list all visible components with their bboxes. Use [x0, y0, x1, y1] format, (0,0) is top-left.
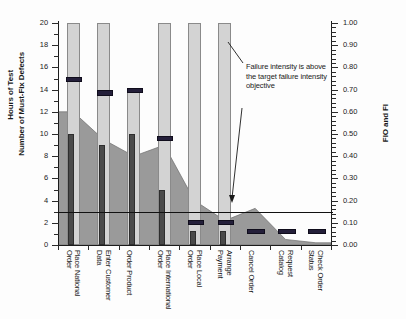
left-axis-title-defects: Number of Must-Fix Defects — [17, 52, 26, 156]
x-axis-category-label: Cancel Order — [246, 250, 255, 293]
left-axis-tick-label: 0 — [26, 241, 48, 249]
right-axis-tick — [331, 156, 338, 157]
left-axis-tick — [52, 156, 59, 157]
x-axis-tick — [88, 245, 89, 250]
marker-failure-intensity — [97, 90, 113, 95]
left-axis-minor-tick — [54, 123, 59, 124]
x-axis-tick — [331, 245, 332, 250]
right-axis-minor-tick — [331, 27, 336, 28]
marker-failure-intensity — [218, 220, 234, 225]
right-axis-tick — [331, 112, 338, 113]
right-axis-minor-tick — [331, 214, 336, 215]
x-axis-tick — [149, 245, 150, 250]
left-axis-tick-label: 8 — [26, 152, 48, 160]
right-axis-minor-tick — [331, 54, 336, 55]
right-axis-minor-tick — [331, 147, 336, 148]
left-axis-title-hours: Hours of Test — [6, 70, 15, 120]
right-axis-minor-tick — [331, 98, 336, 99]
right-axis-minor-tick — [331, 227, 336, 228]
bar-must-fix-defects — [129, 134, 135, 245]
right-axis-tick-label: 0.60 — [343, 108, 373, 116]
left-axis-tick-label: 10 — [26, 130, 48, 138]
left-axis-tick — [52, 201, 59, 202]
x-axis-category-label: Place Local Order — [186, 250, 203, 287]
right-axis-tick — [331, 67, 338, 68]
right-axis-minor-tick — [331, 107, 336, 108]
right-axis-minor-tick — [331, 41, 336, 42]
right-axis-minor-tick — [331, 192, 336, 193]
right-axis-minor-tick — [331, 116, 336, 117]
marker-failure-intensity — [247, 229, 265, 234]
right-axis-tick-label: 0.40 — [343, 152, 373, 160]
left-axis-minor-tick — [54, 101, 59, 102]
right-axis-tick-label: 1.00 — [343, 19, 373, 27]
right-axis-minor-tick — [331, 152, 336, 153]
x-axis-tick — [179, 245, 180, 250]
marker-failure-intensity — [278, 229, 296, 234]
left-axis-minor-tick — [54, 56, 59, 57]
right-axis-minor-tick — [331, 130, 336, 131]
right-axis-minor-tick — [331, 161, 336, 162]
right-axis-minor-tick — [331, 187, 336, 188]
x-axis-category-label: Place International Order — [155, 250, 172, 309]
right-axis-minor-tick — [331, 170, 336, 171]
left-axis-tick — [52, 90, 59, 91]
right-axis-minor-tick — [331, 143, 336, 144]
right-axis-tick-label: 0.80 — [343, 63, 373, 71]
left-axis-minor-tick — [54, 79, 59, 80]
right-axis-minor-tick — [331, 125, 336, 126]
x-axis-tick — [210, 245, 211, 250]
left-axis-minor-tick — [54, 145, 59, 146]
x-axis-category-label: Check Order Status — [307, 250, 324, 291]
x-axis-category-label: Arrange Payment — [216, 250, 233, 279]
bar-must-fix-defects — [68, 134, 74, 245]
x-axis-category-label: Request Catalog — [277, 250, 294, 277]
marker-failure-intensity — [127, 88, 143, 93]
x-axis-tick — [58, 245, 59, 250]
right-axis-tick — [331, 45, 338, 46]
marker-failure-intensity — [308, 229, 326, 234]
left-axis-tick — [52, 67, 59, 68]
right-axis-minor-tick — [331, 32, 336, 33]
marker-failure-intensity — [157, 136, 173, 141]
right-axis-minor-tick — [331, 103, 336, 104]
right-axis-minor-tick — [331, 209, 336, 210]
left-axis-tick-label: 6 — [26, 174, 48, 182]
left-axis-tick-label: 14 — [26, 86, 48, 94]
right-axis-tick-label: 0.50 — [343, 130, 373, 138]
x-axis-category-label: Enter Customer Data — [95, 250, 112, 300]
right-axis-minor-tick — [331, 121, 336, 122]
left-axis-minor-tick — [54, 234, 59, 235]
left-axis-tick — [52, 112, 59, 113]
right-axis-minor-tick — [331, 50, 336, 51]
right-axis-tick-label: 0.90 — [343, 41, 373, 49]
right-axis-minor-tick — [331, 59, 336, 60]
x-axis-category-label: Order Product — [125, 250, 134, 295]
bar-must-fix-defects — [159, 190, 165, 246]
right-axis-tick — [331, 201, 338, 202]
left-axis-tick-label: 20 — [26, 19, 48, 27]
left-axis-minor-tick — [54, 190, 59, 191]
bar-must-fix-defects — [220, 231, 226, 245]
x-axis-tick — [240, 245, 241, 250]
left-axis-tick-label: 18 — [26, 41, 48, 49]
right-axis-minor-tick — [331, 236, 336, 237]
right-axis-minor-tick — [331, 36, 336, 37]
target-threshold-line — [58, 212, 333, 213]
marker-failure-intensity — [66, 77, 82, 82]
right-axis-minor-tick — [331, 138, 336, 139]
right-axis-tick — [331, 23, 338, 24]
bar-must-fix-defects — [99, 145, 105, 245]
right-axis-minor-tick — [331, 174, 336, 175]
x-axis-category-label: Place National Order — [64, 250, 81, 296]
right-axis-tick-label: 0.10 — [343, 219, 373, 227]
left-axis-tick-label: 12 — [26, 108, 48, 116]
right-axis-minor-tick — [331, 165, 336, 166]
right-axis-minor-tick — [331, 232, 336, 233]
right-axis-title: FIO and FI — [381, 104, 390, 142]
left-axis-tick — [52, 223, 59, 224]
right-axis-tick — [331, 245, 338, 246]
chart-figure: 20181614121086420 1.000.900.800.700.600.… — [0, 0, 406, 319]
left-axis-tick — [52, 178, 59, 179]
left-axis-tick-label: 4 — [26, 197, 48, 205]
